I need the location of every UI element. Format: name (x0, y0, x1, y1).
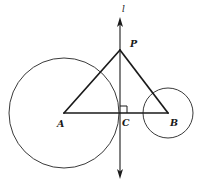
label-point-p: P (130, 39, 137, 49)
segment-ap (64, 50, 120, 113)
segment-pb (120, 50, 168, 113)
label-point-b: B (170, 118, 178, 128)
label-point-a: A (57, 119, 64, 129)
label-line-l: l (122, 5, 125, 14)
label-point-c: C (122, 118, 130, 128)
geometry-canvas (0, 0, 213, 187)
geometry-figure: l P A C B (0, 0, 213, 187)
right-angle-mark-at-c (120, 106, 127, 113)
